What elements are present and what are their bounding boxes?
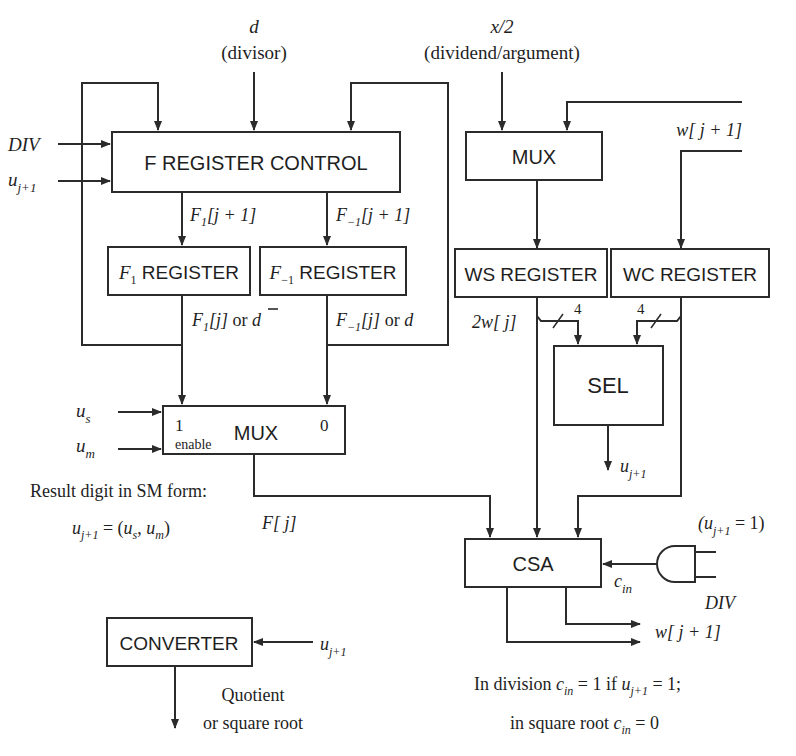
bus-width-wc: 4 — [637, 301, 645, 317]
mux-input-1-label: 1 — [175, 416, 184, 435]
bus-width-ws: 4 — [574, 301, 582, 317]
f-register-control-label: F REGISTER CONTROL — [144, 152, 367, 174]
result-digit-note: Result digit in SM form: — [30, 481, 207, 501]
converter-label: CONVERTER — [120, 633, 239, 654]
ws-bus-to-sel — [537, 316, 578, 344]
divisor-label: (divisor) — [221, 42, 286, 64]
u-m-label: um — [76, 435, 95, 461]
f1-feedback-wire — [82, 83, 182, 345]
f1-next-label: F1[j + 1] — [189, 205, 256, 229]
mux-right-label: MUX — [512, 146, 556, 168]
sel-out-label: uj+1 — [620, 456, 646, 481]
csa-label: CSA — [512, 553, 554, 575]
c-in-label: cin — [614, 571, 632, 596]
w-feedback-wc-wire — [681, 151, 742, 248]
fm1-out-label: F−1[j] or d — [335, 310, 414, 334]
divisor-symbol: d — [249, 16, 259, 37]
f-j-label: F[ j] — [261, 513, 297, 533]
w-feedback-label: w[ j + 1] — [676, 120, 742, 140]
sqrt-note: in square root cin = 0 — [510, 713, 659, 737]
datapath-diagram: d (divisor) x/2 (dividend/argument) F RE… — [0, 0, 796, 756]
wc-register-label: WC REGISTER — [623, 264, 757, 285]
fm1-next-label: F−1[j + 1] — [335, 205, 410, 229]
and-gate-icon — [657, 546, 695, 582]
square-root-label: or square root — [203, 713, 303, 733]
quotient-label: Quotient — [222, 685, 285, 705]
ws-register-label: WS REGISTER — [464, 264, 597, 285]
csa-out-carry-wire — [507, 587, 640, 642]
dividend-label: (dividend/argument) — [424, 42, 580, 64]
two-w-label: 2w[ j] — [472, 312, 517, 332]
and-top-label: (uj+1 = 1) — [698, 513, 765, 538]
mux-left-label: MUX — [234, 422, 278, 444]
u-s-label: us — [76, 400, 91, 426]
mux-input-0-label: 0 — [320, 416, 329, 435]
dividend-symbol: x/2 — [489, 16, 514, 37]
w-out-label: w[ j + 1] — [655, 622, 721, 642]
f1-out-label: F1[j] or d — [191, 310, 262, 334]
mux-enable-label: enable — [175, 437, 212, 452]
division-note: In division cin = 1 if uj+1 = 1; — [474, 674, 681, 698]
sel-label: SEL — [587, 373, 629, 398]
converter-input-label: uj+1 — [320, 634, 346, 659]
wc-bus-to-sel — [637, 316, 681, 344]
div-input-label: DIV — [7, 134, 42, 155]
result-digit-formula: uj+1 = (us, um) — [72, 518, 170, 542]
u-next-input-label: uj+1 — [8, 169, 36, 195]
and-bottom-div-label: DIV — [704, 593, 737, 613]
